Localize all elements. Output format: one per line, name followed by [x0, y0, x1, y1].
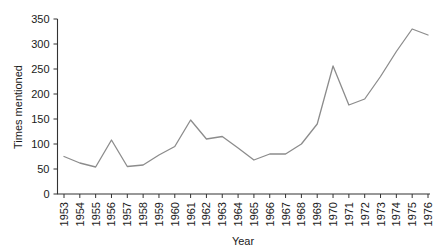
x-tick-label: 1972 [359, 202, 371, 226]
x-tick-label: 1959 [153, 202, 165, 226]
x-tick-label: 1963 [216, 202, 228, 226]
y-tick-label: 300 [31, 38, 49, 50]
x-tick-label: 1953 [58, 202, 70, 226]
x-tick-label: 1976 [422, 202, 434, 226]
x-tick-label: 1970 [327, 202, 339, 226]
y-tick-label: 50 [37, 163, 49, 175]
x-tick-label: 1964 [232, 202, 244, 226]
y-tick-label: 250 [31, 63, 49, 75]
x-tick-label: 1968 [295, 202, 307, 226]
x-tick-label: 1957 [121, 202, 133, 226]
x-axis-title: Year [232, 235, 255, 247]
x-tick-label: 1969 [311, 202, 323, 226]
y-tick-label: 200 [31, 88, 49, 100]
y-tick-label: 0 [43, 188, 49, 200]
x-tick-label: 1973 [375, 202, 387, 226]
x-tick-label: 1975 [406, 202, 418, 226]
y-tick-label: 100 [31, 138, 49, 150]
x-tick-label: 1960 [169, 202, 181, 226]
x-tick-label: 1954 [74, 202, 86, 226]
y-axis-title: Times mentioned [12, 65, 24, 149]
x-tick-label: 1958 [137, 202, 149, 226]
x-tick-label: 1956 [105, 202, 117, 226]
x-tick-label: 1955 [90, 202, 102, 226]
y-tick-label: 350 [31, 13, 49, 25]
chart-canvas: Times mentioned Year 0501001502002503003… [0, 0, 446, 251]
line-chart: Times mentioned Year 0501001502002503003… [0, 0, 446, 251]
x-tick-label: 1961 [185, 202, 197, 226]
x-tick-label: 1965 [248, 202, 260, 226]
x-tick-label: 1962 [200, 202, 212, 226]
x-tick-label: 1967 [280, 202, 292, 226]
x-tick-label: 1966 [264, 202, 276, 226]
x-tick-label: 1974 [390, 202, 402, 226]
y-tick-label: 150 [31, 113, 49, 125]
x-tick-label: 1971 [343, 202, 355, 226]
